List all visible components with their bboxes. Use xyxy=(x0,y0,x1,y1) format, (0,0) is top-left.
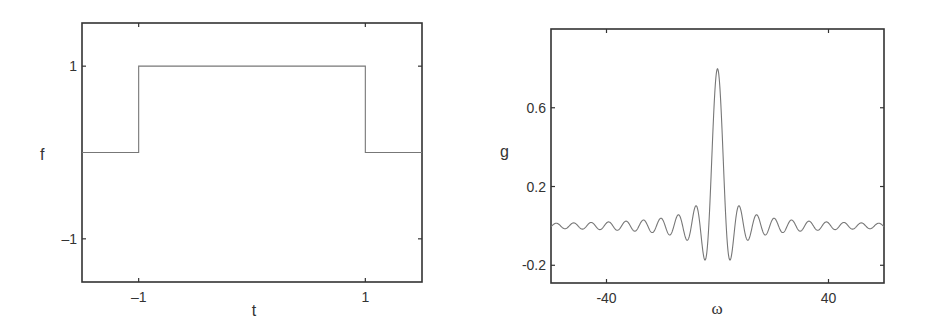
y-tick-label: –1 xyxy=(61,231,77,247)
x-tick-label: –1 xyxy=(131,289,147,305)
y-axis-label-f: f xyxy=(40,146,45,163)
ticks-left: –11–11 xyxy=(61,23,422,305)
figure: –11–11 f t -4040-0.20.20.6 g ω xyxy=(0,0,926,327)
x-tick-label: 40 xyxy=(821,290,837,306)
y-tick-label: 1 xyxy=(69,58,77,74)
x-tick-label: 1 xyxy=(361,289,369,305)
y-axis-label-g: g xyxy=(500,143,509,160)
chart-transform: -4040-0.20.20.6 g ω xyxy=(500,29,884,318)
ticks-right: -4040-0.20.20.6 xyxy=(522,29,884,306)
sinc-curve xyxy=(551,69,884,260)
plot-frame-right xyxy=(551,29,884,283)
x-tick-label: -40 xyxy=(596,290,616,306)
x-axis-label-t: t xyxy=(252,302,257,319)
chart-pulse: –11–11 f t xyxy=(40,23,422,319)
y-tick-label: -0.2 xyxy=(522,257,546,273)
pulse-curve xyxy=(82,66,422,152)
y-tick-label: 0.6 xyxy=(527,100,547,116)
x-axis-label-omega: ω xyxy=(711,299,722,318)
y-tick-label: 0.2 xyxy=(527,179,547,195)
